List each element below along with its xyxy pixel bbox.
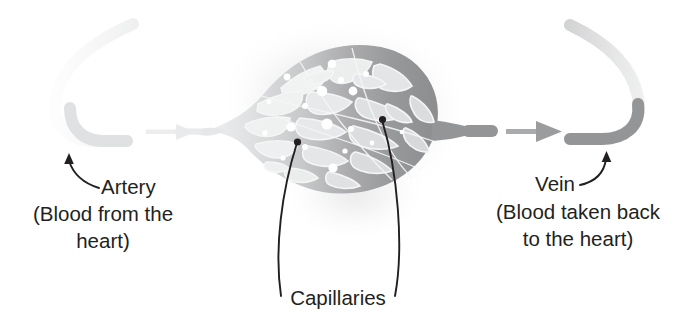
artery-detail-line-2: heart): [76, 229, 130, 252]
vein-detail-line-2: to the heart): [523, 227, 634, 250]
artery-label: Artery: [101, 175, 156, 198]
capillaries-label: Capillaries: [290, 286, 386, 309]
capillaries-label-group: Capillaries: [290, 286, 386, 309]
vein-label: Vein: [535, 172, 575, 195]
circulation-diagram: Artery (Blood from the heart) Vein (Bloo…: [0, 0, 696, 334]
diagram-canvas: Artery (Blood from the heart) Vein (Bloo…: [0, 0, 696, 334]
vein-detail-line-1: (Blood taken back: [496, 200, 661, 223]
artery-detail-line-1: (Blood from the: [33, 202, 173, 225]
